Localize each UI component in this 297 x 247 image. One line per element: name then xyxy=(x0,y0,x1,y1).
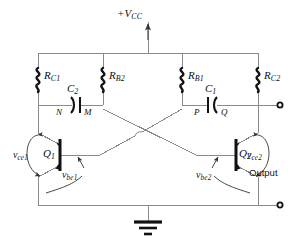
output-terminal-bottom[interactable] xyxy=(277,202,282,207)
circuit-schematic-svg xyxy=(0,0,297,247)
wire-cross-to-p xyxy=(142,109,182,132)
resistor-rc1-label: RC1 xyxy=(44,70,60,83)
wire-q1-collector-lead xyxy=(38,133,57,143)
node-n-label: N xyxy=(56,108,62,117)
supply-label: +VCC xyxy=(117,8,142,21)
vbe2-measure-arrow xyxy=(212,157,218,168)
wire-layer xyxy=(38,22,277,222)
vce2-label: vce2 xyxy=(247,150,262,162)
wire-q2-collector-lead xyxy=(239,133,258,143)
resistor-rb1-label: RB1 xyxy=(188,70,204,83)
vbe2-measure-tail xyxy=(214,176,250,193)
vce1-measure-arc xyxy=(27,135,40,176)
ground-symbol xyxy=(134,222,162,234)
resistor-rb2-label: RB2 xyxy=(109,70,125,83)
node-q-label: Q xyxy=(221,108,228,117)
vbe2-label: vbe2 xyxy=(196,170,211,182)
capacitor-c1-label: C1 xyxy=(205,83,217,96)
node-m-label: M xyxy=(84,108,92,117)
vbe1-label: vbe1 xyxy=(62,170,77,182)
wire-cross-q1base-up xyxy=(100,136,135,155)
wire-q1-emitter-lead xyxy=(38,167,57,177)
transistor-q1-symbol xyxy=(55,139,60,171)
node-p-label: P xyxy=(194,108,200,117)
output-label: Output xyxy=(249,168,278,178)
resistor-rc1-symbol xyxy=(36,68,39,92)
vbe1-measure-arrow xyxy=(78,157,84,168)
resistor-rb1-symbol xyxy=(180,68,183,92)
wire-hop-crossover xyxy=(135,132,142,136)
capacitor-c1-symbol xyxy=(208,97,217,113)
wire-cross-m-to-q2base xyxy=(103,109,196,155)
transistor-q1-label: Q1 xyxy=(43,148,55,161)
capacitor-c2-label: C2 xyxy=(67,83,79,96)
circuit-diagram: +VCC RC1 RB2 RB1 RC2 C2 C1 N M P Q Q1 Q2… xyxy=(0,0,297,247)
resistor-rb2-symbol xyxy=(101,68,104,92)
resistor-rc2-label: RC2 xyxy=(264,70,280,83)
vce1-label: vce1 xyxy=(13,150,28,162)
output-terminal-top[interactable] xyxy=(277,102,282,107)
capacitor-c2-symbol xyxy=(71,97,80,113)
resistor-rc2-symbol xyxy=(256,68,259,92)
